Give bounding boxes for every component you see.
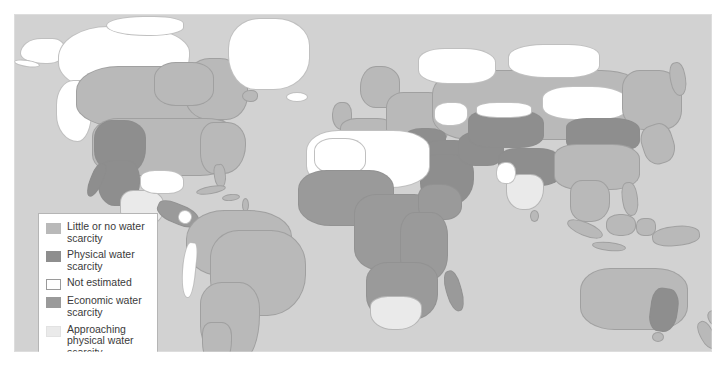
region-indochina: [570, 180, 610, 222]
legend-label-approaching: Approaching physical water scarcity: [67, 324, 134, 352]
region-mexico-gulf-strip: [140, 170, 184, 194]
region-greenland: [228, 18, 310, 90]
legend-item-approaching: Approaching physical water scarcity: [46, 324, 151, 352]
legend-label-little: Little or no water scarcity: [67, 221, 145, 244]
legend-item-physical: Physical water scarcity: [46, 249, 151, 272]
legend-swatch-economic-icon: [46, 297, 61, 308]
legend-item-little: Little or no water scarcity: [46, 221, 151, 244]
world-map: Little or no water scarcity Physical wat…: [14, 14, 712, 352]
region-india-central-strip: [496, 162, 516, 184]
legend-label-physical: Physical water scarcity: [67, 249, 135, 272]
region-patagonia: [202, 322, 232, 352]
region-south-africa: [370, 296, 422, 330]
region-newfoundland: [242, 90, 258, 102]
region-andes-pacific-coast: [179, 241, 199, 298]
region-java: [592, 240, 627, 253]
water-scarcity-legend: Little or no water scarcity Physical wat…: [38, 213, 158, 352]
region-iceland: [286, 92, 308, 102]
region-northern-russia-east: [508, 44, 600, 78]
region-sri-lanka: [530, 210, 539, 222]
region-hudson-bay-surround: [154, 62, 214, 106]
region-southeastern-australia: [647, 286, 681, 333]
region-philippines: [620, 181, 641, 217]
legend-label-economic: Economic water scarcity: [67, 295, 142, 318]
region-hispaniola: [222, 193, 241, 202]
region-northern-russia-west: [418, 48, 496, 84]
region-arctic-islands: [106, 16, 184, 36]
region-tasmania: [652, 332, 664, 342]
legend-swatch-little-icon: [46, 223, 61, 234]
legend-swatch-not-estimated-icon: [46, 279, 61, 290]
region-new-zealand: [694, 318, 712, 351]
region-northwest-africa: [314, 138, 366, 174]
region-madagascar: [441, 269, 468, 314]
legend-item-not-estimated: Not estimated: [46, 277, 151, 290]
region-borneo: [606, 214, 636, 236]
water-scarcity-map-figure: Little or no water scarcity Physical wat…: [0, 0, 726, 365]
legend-swatch-approaching-icon: [46, 326, 61, 337]
region-mongolia: [542, 86, 628, 120]
region-caucasus: [434, 102, 468, 126]
legend-label-not-estimated: Not estimated: [67, 277, 132, 289]
legend-swatch-physical-icon: [46, 251, 61, 262]
region-kazakhstan-north: [476, 102, 532, 118]
legend-item-economic: Economic water scarcity: [46, 295, 151, 318]
region-new-guinea: [651, 224, 701, 249]
region-cuba: [196, 183, 227, 196]
